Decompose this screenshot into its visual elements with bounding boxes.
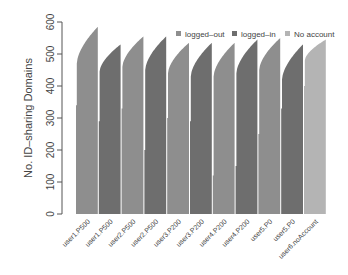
bar-group	[190, 43, 212, 214]
x-tick-label: user5.P0	[249, 218, 274, 243]
x-axis: user1.P500user1.P500user2.P500user2.P500…	[61, 218, 319, 260]
bar-group	[99, 44, 121, 214]
chart: 0100200300400500600 user1.P500user1.P500…	[0, 0, 348, 275]
y-tick-label: 500	[45, 45, 56, 62]
y-tick-label: 0	[45, 211, 56, 217]
y-tick-label: 300	[45, 109, 56, 126]
bar-group	[122, 36, 144, 214]
bar-group	[213, 43, 235, 214]
legend-label: logged–in	[241, 30, 276, 39]
legend-label: logged–out	[185, 30, 225, 39]
legend: logged–outlogged–inNo account	[176, 30, 335, 39]
bar-group	[258, 38, 280, 214]
legend-swatch	[232, 31, 237, 36]
y-tick-label: 200	[45, 141, 56, 158]
y-axis: 0100200300400500600	[45, 13, 62, 217]
bar-group	[167, 43, 189, 214]
y-tick-label: 600	[45, 13, 56, 30]
bar-group	[76, 27, 98, 214]
bar-group	[281, 44, 303, 214]
y-tick-label: 100	[45, 173, 56, 190]
legend-swatch	[285, 31, 290, 36]
bar-group	[304, 40, 326, 214]
legend-swatch	[176, 31, 181, 36]
legend-label: No account	[294, 30, 335, 39]
y-axis-title: No. ID–sharing Domains	[22, 58, 34, 178]
y-tick-label: 400	[45, 77, 56, 94]
plot-area	[76, 27, 326, 214]
bar-group	[236, 40, 258, 214]
bar-group	[144, 36, 166, 214]
x-tick-label: user6.noAccount	[277, 218, 319, 260]
